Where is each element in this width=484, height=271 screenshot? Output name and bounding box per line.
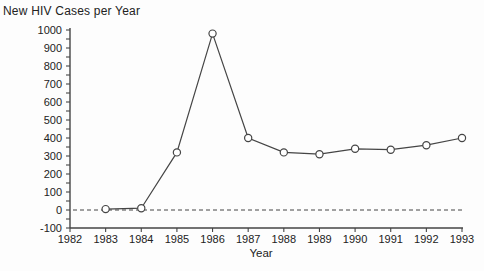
data-point-marker [102, 206, 109, 213]
x-axis-title: Year [249, 247, 272, 259]
x-tick-label: 1982 [58, 233, 82, 245]
y-tick-label: 600 [44, 96, 62, 108]
y-tick-label: 500 [44, 114, 62, 126]
x-tick-label: 1992 [414, 233, 438, 245]
data-point-marker [209, 30, 216, 37]
x-tick-label: 1990 [343, 233, 367, 245]
y-tick-label: 400 [44, 132, 62, 144]
y-tick-label: 100 [44, 186, 62, 198]
x-tick-label: 1988 [272, 233, 296, 245]
data-point-marker [351, 145, 358, 152]
y-tick-label: 900 [44, 42, 62, 54]
y-tick-label: 200 [44, 168, 62, 180]
y-tick-label: 800 [44, 60, 62, 72]
data-point-marker [423, 142, 430, 149]
y-tick-label: 700 [44, 78, 62, 90]
x-tick-label: 1993 [450, 233, 474, 245]
data-point-marker [387, 146, 394, 153]
x-tick-label: 1991 [378, 233, 402, 245]
data-point-marker [245, 134, 252, 141]
y-tick-label: 1000 [38, 24, 62, 36]
y-tick-label: 0 [56, 204, 62, 216]
data-point-marker [173, 149, 180, 156]
data-point-marker [458, 134, 465, 141]
x-tick-label: 1985 [165, 233, 189, 245]
data-point-marker [316, 151, 323, 158]
x-tick-label: 1989 [307, 233, 331, 245]
x-tick-label: 1984 [129, 233, 153, 245]
x-tick-label: 1986 [200, 233, 224, 245]
hiv-cases-line-chart-figure: New HIV Cases per Year -1000100200300400… [0, 0, 484, 271]
data-point-marker [280, 149, 287, 156]
data-point-marker [138, 205, 145, 212]
x-tick-label: 1983 [93, 233, 117, 245]
series-line [106, 34, 462, 210]
x-tick-label: 1987 [236, 233, 260, 245]
y-tick-label: 300 [44, 150, 62, 162]
line-chart-canvas: -100010020030040050060070080090010001982… [0, 0, 484, 271]
